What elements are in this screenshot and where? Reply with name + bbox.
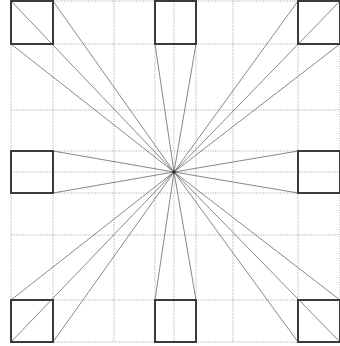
vanishing-ray: [174, 1, 298, 172]
vanishing-ray: [174, 44, 340, 172]
vanishing-ray: [11, 172, 174, 342]
vanishing-ray: [11, 44, 174, 172]
vanishing-ray: [11, 1, 174, 172]
perspective-diagram: [0, 0, 340, 346]
vanishing-ray: [53, 172, 174, 193]
vanishing-ray: [174, 151, 298, 172]
vanishing-ray: [53, 151, 174, 172]
box-top-center: [155, 1, 196, 44]
vanishing-ray: [174, 172, 298, 193]
vanishing-ray: [155, 172, 174, 300]
vanishing-point: [172, 170, 175, 173]
box-bottom-center: [155, 300, 196, 342]
box-middle-left: [11, 151, 53, 193]
vanishing-ray: [11, 172, 174, 300]
vanishing-ray: [174, 172, 340, 342]
vanishing-ray: [155, 44, 174, 172]
vanishing-ray: [174, 1, 340, 172]
diagram-svg: [0, 0, 340, 346]
vanishing-ray: [174, 172, 298, 342]
vanishing-ray: [174, 172, 340, 300]
